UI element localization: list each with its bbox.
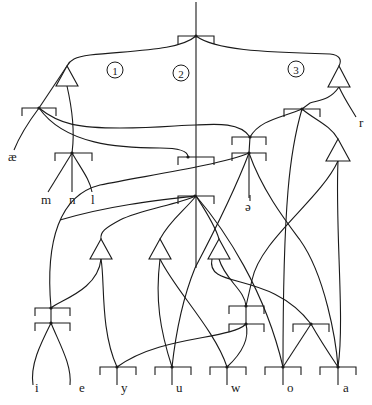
segment-label: o [287,380,294,395]
circled-number-text: 2 [178,68,184,80]
segment-label: e [79,380,85,395]
node-u [155,365,191,375]
branch-line [283,324,311,367]
node-dot [170,365,173,368]
node-dot [225,365,228,368]
circled-number-2: 2 [173,65,189,81]
node-dot [244,304,247,307]
segment-label: w [231,380,241,395]
branch-line [101,196,196,239]
segment-label: a [343,380,349,395]
feature-tree-diagram: 123 æmnlrəieyuwoa [0,0,372,405]
tri-right-icon [326,139,350,161]
node-dot [49,306,52,309]
node-right [284,107,320,117]
node-dot [115,365,118,368]
segment-label: ə [245,199,251,214]
branch-line [72,153,92,192]
node-dot [194,34,197,37]
circled-number-text: 1 [112,65,118,77]
bracket-icon [55,153,92,161]
node-dot [244,322,247,325]
tri-1-icon [56,66,78,86]
circled-numbers: 123 [107,61,304,81]
branch-line [249,153,338,367]
branch-line [302,87,339,109]
node-ae [22,106,56,116]
branch-line [196,124,250,137]
branch-lines [14,2,356,385]
branch-line [250,109,302,137]
segment-label: n [69,192,76,207]
node-dot [193,194,196,197]
branch-line [196,36,340,66]
segment-label: l [91,192,95,207]
node-y [100,365,136,375]
tri-C-icon [208,239,230,259]
circled-number-1: 1 [107,62,123,78]
segment-label: æ [8,149,17,164]
branch-line [117,324,246,367]
node-dot [300,107,303,110]
segment-label: u [176,380,183,395]
node-ie-upper [35,306,70,316]
bracket-icon [35,308,70,316]
node-dot [281,365,284,368]
branch-line [311,324,338,367]
node-dot [49,321,52,324]
segment-label: i [35,380,39,395]
triangle-nodes [56,66,350,259]
segment-label: y [121,380,128,395]
branch-line [51,323,70,385]
node-dot [248,135,251,138]
node-schwa-upper [232,135,266,145]
branch-line [67,86,73,153]
branch-line [101,259,117,367]
branch-line [246,161,338,306]
branch-line [337,161,340,367]
branch-line [160,259,227,367]
branch-line [32,323,51,385]
node-dot [37,106,40,109]
branch-line [39,108,196,128]
branch-line [196,196,219,239]
tri-A-icon [90,239,112,259]
segment-label: r [359,115,364,130]
branch-line [211,259,311,324]
node-dot [336,365,339,368]
branch-line [339,87,356,117]
branch-line [48,153,72,192]
circled-number-text: 3 [293,64,299,76]
circled-number-3: 3 [288,61,304,77]
branch-line [249,137,250,153]
node-dot [70,151,73,154]
node-oa [293,322,329,332]
node-w [210,365,246,375]
tri-3-icon [328,66,350,87]
tri-B-icon [149,239,171,259]
node-dot [186,155,189,158]
node-dot [309,322,312,325]
branch-line [67,36,196,66]
branch-line [39,108,188,157]
branch-line [227,324,247,367]
branch-line [14,108,39,150]
branch-line [50,153,249,308]
segment-label: m [41,192,51,207]
branch-line [51,259,101,308]
branch-line [39,66,67,108]
node-dot [247,151,250,154]
